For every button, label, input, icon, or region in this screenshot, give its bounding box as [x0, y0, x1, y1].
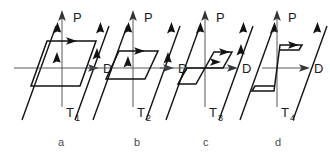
hysteresis-loop-figure: P D T 1 a — [0, 0, 330, 159]
panel-a-p-axis — [58, 10, 66, 107]
panel-a-hysteresis-loop — [31, 41, 96, 86]
panel-c-temperature-label: T — [209, 105, 217, 120]
panel-d-hysteresis-loop-upper — [277, 45, 302, 68]
panel-c-p-label: P — [216, 10, 225, 25]
panel-d-d-label: D — [314, 61, 323, 76]
panel-c-d-label: D — [242, 61, 251, 76]
panel-a-p-label: P — [73, 10, 82, 25]
panel-b-p-label: P — [144, 10, 153, 25]
panel-b-letter: b — [134, 136, 140, 148]
panel-d-p-label: P — [288, 10, 297, 25]
panel-c-temperature-subscript: 3 — [218, 113, 223, 123]
panel-d-hysteresis-loop-lower — [252, 68, 277, 91]
panel-a: P D T 1 a — [14, 10, 112, 148]
figure-canvas: P D T 1 a — [0, 0, 330, 159]
panel-a-temperature-subscript: 1 — [75, 113, 80, 123]
panel-a-letter: a — [58, 136, 65, 148]
panel-d-temperature-subscript: 4 — [290, 113, 295, 123]
panel-a-temperature-label: T — [66, 105, 74, 120]
panel-d-letter: d — [275, 136, 281, 148]
panel-d: P D T 4 d — [240, 10, 327, 148]
panel-d-temperature-label: T — [281, 105, 289, 120]
panel-b-temperature-subscript: 2 — [146, 113, 151, 123]
panel-c-letter: c — [203, 136, 209, 148]
panel-b-p-axis — [129, 10, 137, 107]
panel-b-temperature-label: T — [137, 105, 145, 120]
panel-c-p-axis — [201, 10, 209, 107]
panel-b-hysteresis-loop — [106, 51, 158, 79]
panel-c-flow-arrow-inner — [210, 58, 221, 66]
panel-d-d-axis — [262, 64, 310, 72]
